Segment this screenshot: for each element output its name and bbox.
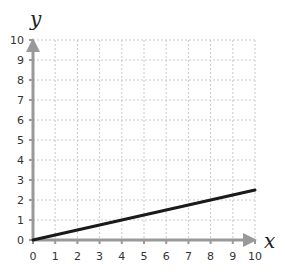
y-tick-label: 10 [10,34,24,47]
x-tick-label: 8 [207,250,214,263]
y-tick-label: 3 [17,174,24,187]
y-tick-label: 6 [17,114,24,127]
x-tick-label: 4 [118,250,125,263]
y-tick-label: 8 [17,74,24,87]
x-axis-title: x [264,229,275,253]
y-tick-label: 1 [17,214,24,227]
x-tick-label: 9 [229,250,236,263]
x-tick-label: 1 [52,250,59,263]
x-tick-label: 0 [30,250,37,263]
x-tick-label: 2 [74,250,81,263]
x-tick-label: 10 [248,250,262,263]
tick-labels: 012345678910012345678910 [10,34,262,263]
x-tick-label: 6 [163,250,170,263]
y-tick-label: 9 [17,54,24,67]
y-tick-label: 7 [17,94,24,107]
y-tick-label: 0 [17,234,24,247]
x-tick-label: 5 [141,250,148,263]
x-tick-label: 7 [185,250,192,263]
y-axis-title: y [29,7,42,31]
line-chart: 012345678910012345678910 x y [0,0,285,272]
y-tick-label: 2 [17,194,24,207]
grid-lines [33,40,255,240]
y-tick-label: 4 [17,154,24,167]
x-tick-label: 3 [96,250,103,263]
y-tick-label: 5 [17,134,24,147]
